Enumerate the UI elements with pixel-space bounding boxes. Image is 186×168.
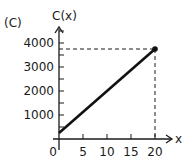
tick-marks xyxy=(59,31,155,139)
endpoint-marker xyxy=(152,46,158,52)
panel-label: (C) xyxy=(4,16,22,30)
x-tick-label: 15 xyxy=(123,145,138,159)
data-line xyxy=(59,46,158,133)
tick-labels: 100020003000400005101520 xyxy=(23,36,162,159)
x-tick-label: 10 xyxy=(99,145,114,159)
series-line xyxy=(59,49,155,133)
x-tick-label: 5 xyxy=(79,145,87,159)
axes xyxy=(53,27,172,150)
y-tick-label: 2000 xyxy=(23,84,54,98)
y-tick-label: 3000 xyxy=(23,60,54,74)
y-tick-label: 1000 xyxy=(23,108,54,122)
y-tick-label: 4000 xyxy=(23,36,54,50)
x-tick-label: 0 xyxy=(49,145,57,159)
cost-function-chart: (C) 100020003000400005101520 C(x) x xyxy=(0,0,186,168)
x-tick-label: 20 xyxy=(147,145,162,159)
x-axis-label: x xyxy=(175,132,182,146)
y-axis-label: C(x) xyxy=(52,9,77,23)
